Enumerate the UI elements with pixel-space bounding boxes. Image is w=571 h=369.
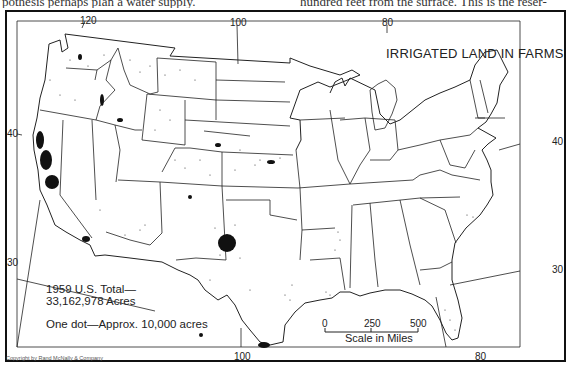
- state-california-nevada: [60, 120, 92, 238]
- copyright-notice: Copyright by Rand McNally & Company: [6, 355, 103, 361]
- longitude-tick-100-top: 100: [230, 17, 247, 28]
- total-label-line1: 1959 U.S. Total—: [46, 283, 136, 295]
- state-pa: [398, 128, 478, 150]
- state-montana-idaho: [118, 48, 158, 94]
- scale-mark-250: 250: [364, 318, 381, 329]
- state-nd-sd: [216, 80, 285, 82]
- latitude-tick-40-left: 40: [7, 128, 18, 139]
- state-wyoming: [142, 94, 185, 145]
- state-arizona: [106, 180, 162, 245]
- state-oregon-border: [40, 60, 115, 120]
- state-nebraska-north: [185, 120, 290, 126]
- scale-mark-0: 0: [322, 318, 328, 329]
- total-label-line2: 33,162,978 Acres: [46, 295, 136, 307]
- state-tn-nc: [353, 197, 460, 205]
- meridian-100-north: [237, 25, 238, 64]
- latitude-tick-30-left: 30: [7, 257, 18, 268]
- meridian-west-diag: [17, 200, 40, 347]
- longitude-tick-80-bottom: 80: [475, 351, 486, 362]
- state-sc: [420, 198, 456, 243]
- scale-mark-500: 500: [410, 318, 427, 329]
- dot-legend: One dot—Approx. 10,000 acres: [46, 318, 208, 330]
- state-louisiana: [310, 258, 345, 290]
- state-indiana: [340, 118, 370, 184]
- state-colorado: [162, 148, 222, 186]
- state-missouri-west: [296, 150, 302, 260]
- longitude-tick-100-bottom: 100: [234, 351, 251, 362]
- state-newmexico: [160, 182, 226, 260]
- state-montana: [157, 58, 216, 120]
- longitude-tick-80-top: 80: [382, 17, 393, 28]
- state-md-va: [440, 140, 475, 168]
- latitude-tick-40-right: 40: [552, 136, 563, 147]
- state-alabama: [370, 203, 378, 287]
- state-oklahoma: [226, 200, 297, 220]
- latitude-tick-30-right: 30: [552, 264, 563, 275]
- longitude-tick-120: 120: [80, 15, 97, 26]
- state-ohio: [365, 118, 398, 160]
- parallel-40-east: [499, 144, 520, 150]
- parallel-30-east: [450, 271, 520, 285]
- state-georgia: [400, 200, 420, 285]
- map-title: IRRIGATED LAND IN FARMS: [386, 46, 564, 61]
- state-vt-nh: [470, 80, 485, 118]
- state-illinois: [330, 110, 350, 184]
- scale-title: Scale in Miles: [345, 332, 413, 344]
- total-acres-label: 1959 U.S. Total— 33,162,978 Acres: [46, 283, 136, 307]
